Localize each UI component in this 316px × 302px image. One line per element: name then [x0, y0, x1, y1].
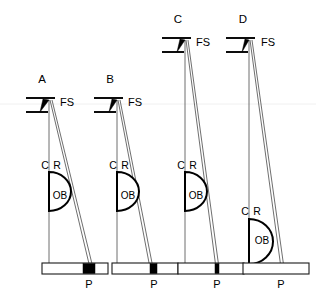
front-sight-wedge	[177, 39, 185, 52]
center-line-label: C	[177, 159, 185, 171]
panel-letter: B	[106, 73, 114, 85]
ray-line-label: R	[189, 159, 197, 171]
ray-line-r	[186, 40, 216, 268]
front-sight-wedge	[40, 99, 49, 112]
diagram-canvas: AFSCROBPBFSCROBPCFSCROBPDFSCROBP	[0, 0, 316, 302]
center-line-label: C	[109, 159, 117, 171]
front-sight-wedge	[109, 99, 117, 112]
plate-bar	[178, 263, 244, 274]
plate-label: P	[85, 278, 92, 290]
center-line-label: C	[241, 205, 249, 217]
front-sight-label: FS	[196, 36, 210, 48]
objective-block-label: OB	[121, 190, 136, 201]
plate-bar	[243, 263, 309, 274]
sighting-diagram: AFSCROBPBFSCROBPCFSCROBPDFSCROBP	[0, 0, 316, 302]
objective-block-label: OB	[255, 235, 270, 246]
ray-line-label: R	[121, 159, 129, 171]
panel-a	[26, 98, 108, 274]
front-sight-label: FS	[261, 36, 275, 48]
objective-block-label: OB	[189, 190, 204, 201]
center-line-label: C	[41, 159, 49, 171]
plate-label: P	[213, 278, 220, 290]
front-sight-label: FS	[128, 96, 142, 108]
objective-block-label: OB	[53, 190, 68, 201]
front-sight-wedge	[242, 39, 249, 52]
plate-bar	[42, 263, 108, 274]
panel-letter: A	[38, 73, 46, 85]
ray-line-r-outer	[188, 40, 219, 268]
plate-label: P	[277, 278, 284, 290]
panel-letter: D	[239, 13, 247, 25]
plate-impact-segment	[83, 264, 95, 274]
panel-b	[94, 98, 178, 274]
plate-impact-segment	[215, 264, 219, 274]
panel-c	[162, 38, 244, 274]
labels-layer: AFSCROBPBFSCROBPCFSCROBPDFSCROBP	[38, 13, 285, 290]
plate-bar	[112, 263, 178, 274]
plate-label: P	[150, 278, 157, 290]
ray-line-label: R	[253, 205, 261, 217]
panel-letter: C	[174, 13, 182, 25]
plate-impact-segment	[150, 264, 157, 274]
ray-line-label: R	[53, 159, 61, 171]
front-sight-label: FS	[60, 96, 74, 108]
